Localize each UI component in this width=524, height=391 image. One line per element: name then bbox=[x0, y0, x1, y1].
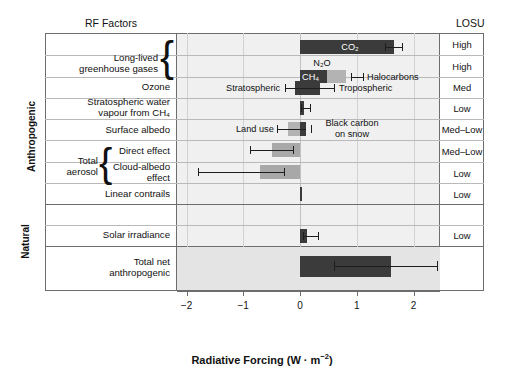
group-label-anthropogenic: Anthropogenic bbox=[26, 77, 37, 197]
row-label-total-aerosol: Total aerosol bbox=[46, 155, 98, 178]
bar-annotation-black-carbon: Black carbon on snow bbox=[314, 118, 390, 140]
errorbar-surface-albedo-cap-low bbox=[277, 125, 278, 133]
x-tick-label-plus1: 1 bbox=[342, 300, 372, 311]
losu-value-cloud-albedo: Low bbox=[440, 168, 484, 179]
row-label-cloud-albedo-effect: Cloud-albedo effect bbox=[108, 161, 170, 184]
bar-annotation-halocarbons: Halocarbons bbox=[367, 72, 419, 82]
errorbar-strat-water-line bbox=[301, 108, 310, 109]
errorbar-total-net-cap-high bbox=[437, 261, 438, 271]
x-axis-title-exponent: −2 bbox=[320, 352, 329, 361]
bar-annotation-ch4: CH₄ bbox=[302, 72, 319, 82]
losu-value-strat-water: Low bbox=[440, 103, 484, 114]
bar-linear-contrails bbox=[300, 187, 303, 201]
errorbar-direct-effect-cap-low bbox=[250, 146, 251, 154]
x-tick-label-plus2: 2 bbox=[399, 300, 429, 311]
losu-header: LOSU bbox=[456, 17, 485, 29]
errorbar-direct-effect-cap-high bbox=[293, 146, 294, 154]
errorbar-co2-line bbox=[385, 47, 402, 48]
errorbar-ozone-cap-high bbox=[334, 84, 335, 92]
losu-value-contrails: Low bbox=[440, 189, 484, 200]
errorbar-solar-cap-high bbox=[318, 232, 319, 240]
rf-factors-header: RF Factors bbox=[85, 17, 137, 29]
losu-value-ch4-n2o-halo: High bbox=[440, 61, 484, 72]
losu-value-solar: Low bbox=[440, 230, 484, 241]
errorbar-solar-cap-low bbox=[303, 232, 304, 240]
row-label-total-net-anthropogenic: Total net anthropogenic bbox=[48, 256, 170, 279]
x-tick-minus2 bbox=[187, 291, 188, 296]
errorbar-halocarbons-line bbox=[351, 77, 363, 78]
errorbar-direct-effect-line bbox=[250, 150, 293, 151]
errorbar-surface-albedo-cap-high bbox=[311, 125, 312, 133]
errorbar-co2-cap-low bbox=[385, 43, 386, 51]
losu-value-surface-albedo: Med–Low bbox=[440, 124, 484, 135]
errorbar-halocarbons-cap-high bbox=[363, 73, 364, 81]
x-tick-label-minus2: −2 bbox=[172, 300, 202, 311]
x-axis-title-close: ) bbox=[329, 354, 333, 366]
losu-value-direct-effect: Med–Low bbox=[440, 146, 484, 157]
bar-halocarbons bbox=[327, 70, 346, 83]
errorbar-total-net-line bbox=[334, 266, 437, 267]
x-tick-label-minus1: −1 bbox=[228, 300, 258, 311]
errorbar-ozone-cap-low bbox=[285, 84, 286, 92]
losu-value-ozone: Med bbox=[440, 82, 484, 93]
x-tick-minus1 bbox=[243, 291, 244, 296]
errorbar-ozone-line bbox=[285, 88, 334, 89]
row-label-linear-contrails: Linear contrails bbox=[48, 188, 170, 199]
row-label-long-lived-ghg: Long-lived greenhouse gases bbox=[48, 52, 158, 75]
bar-annotation-land-use: Land use bbox=[236, 124, 274, 134]
errorbar-surface-albedo-line bbox=[277, 129, 306, 130]
row-separator-9 bbox=[45, 225, 484, 226]
errorbar-strat-water-cap-low bbox=[301, 104, 302, 112]
errorbar-cloud-albedo-cap-low bbox=[198, 168, 199, 176]
bar-annotation-n2o: N₂O bbox=[300, 58, 344, 68]
x-axis-title: Radiative Forcing (W · m−2) bbox=[0, 352, 524, 366]
row-label-ozone: Ozone bbox=[48, 81, 170, 92]
losu-value-co2: High bbox=[440, 39, 484, 50]
row-label-solar-irradiance: Solar irradiance bbox=[48, 229, 170, 240]
errorbar-co2-cap-high bbox=[402, 43, 403, 51]
x-tick-plus1 bbox=[357, 291, 358, 296]
x-tick-plus2 bbox=[414, 291, 415, 296]
brace-long-lived: { bbox=[160, 36, 174, 78]
radiative-forcing-figure: RF Factors LOSU Anthropogenic Natural Lo… bbox=[0, 0, 524, 391]
errorbar-strat-water-cap-high bbox=[310, 104, 311, 112]
x-tick-zero bbox=[300, 291, 301, 296]
errorbar-cloud-albedo-cap-high bbox=[284, 168, 285, 176]
bar-annotation-stratospheric: Stratospheric bbox=[226, 83, 280, 93]
errorbar-halocarbons-cap-low bbox=[351, 73, 352, 81]
group-label-natural: Natural bbox=[20, 211, 31, 273]
errorbar-solar-line bbox=[303, 236, 318, 237]
errorbar-total-net-cap-low bbox=[334, 261, 335, 271]
bar-annotation-tropospheric: Tropospheric bbox=[339, 83, 392, 93]
row-label-surface-albedo: Surface albedo bbox=[48, 124, 170, 135]
x-axis-line bbox=[177, 291, 440, 292]
row-label-direct-effect: Direct effect bbox=[110, 145, 170, 156]
errorbar-cloud-albedo-line bbox=[198, 172, 284, 173]
row-label-strat-water-vapour: Stratospheric water vapour from CH₄ bbox=[48, 96, 170, 119]
row-separator-natural bbox=[45, 204, 484, 205]
x-axis-title-main: Radiative Forcing (W · m bbox=[191, 354, 320, 366]
bar-annotation-co2: CO₂ bbox=[330, 42, 370, 52]
x-tick-label-zero: 0 bbox=[285, 300, 315, 311]
